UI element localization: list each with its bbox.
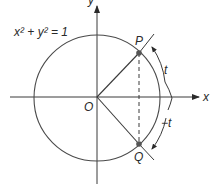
point-q: [136, 141, 142, 147]
point-q-label: Q: [134, 150, 143, 164]
point-p-label: P: [135, 34, 143, 48]
point-p: [136, 50, 142, 56]
y-axis-label: y: [87, 0, 95, 7]
arc-link: [165, 82, 172, 98]
unit-circle-diagram: x² + y² = 1 O x y P Q t −t: [0, 0, 211, 192]
x-axis-label: x: [202, 90, 210, 104]
arc-t-label: t: [164, 63, 168, 77]
arc-minus-t-label: −t: [161, 116, 172, 130]
radius-oq: [97, 97, 139, 144]
arc-link-lower: [168, 98, 172, 110]
radius-op: [97, 53, 139, 97]
equation-label: x² + y² = 1: [13, 25, 68, 39]
origin-label: O: [84, 100, 93, 114]
